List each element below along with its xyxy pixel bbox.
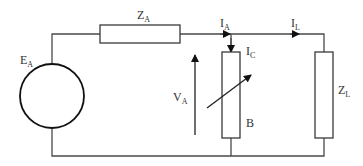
label-za: ZA xyxy=(137,8,150,24)
label-va: VA xyxy=(173,90,188,106)
impedance-zl xyxy=(315,52,333,138)
label-ia: IA xyxy=(220,16,230,32)
wire-source-to-za xyxy=(52,34,100,63)
label-il: IL xyxy=(291,16,300,32)
label-ic: IC xyxy=(246,44,255,60)
wire-top-bus xyxy=(180,34,324,52)
impedance-za xyxy=(100,25,180,43)
wire-bottom-bus xyxy=(52,129,324,156)
label-ea: EA xyxy=(20,53,33,69)
label-zl: ZL xyxy=(338,83,350,99)
wires xyxy=(52,34,324,156)
circuit-diagram: EA ZA IA IL IC B VA ZL xyxy=(0,0,363,166)
voltage-source-ea xyxy=(20,64,84,128)
label-b: B xyxy=(246,116,254,130)
